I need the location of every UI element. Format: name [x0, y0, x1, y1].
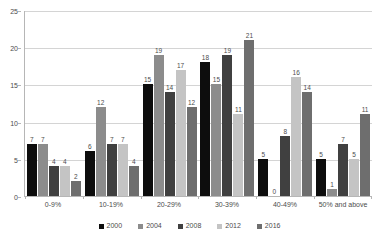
bar-value-label: 5	[261, 151, 265, 158]
x-tick-mark	[141, 196, 142, 199]
y-tick-label: 20	[10, 45, 18, 52]
bar[interactable]	[349, 159, 359, 196]
x-tick-label: 20-29%	[140, 200, 198, 216]
legend-swatch-icon	[138, 224, 143, 229]
bar-value-label: 17	[177, 62, 184, 69]
bar-value-label: 5	[319, 151, 323, 158]
bar[interactable]	[96, 107, 106, 196]
bar-slot: 16	[291, 11, 301, 196]
bar[interactable]	[107, 144, 117, 196]
bar[interactable]	[176, 70, 186, 196]
bar-value-label: 11	[362, 106, 369, 113]
legend-item[interactable]: 2012	[217, 222, 241, 230]
x-tick-mark	[25, 196, 26, 199]
bar[interactable]	[222, 55, 232, 196]
bar[interactable]	[302, 92, 312, 196]
bar-value-label: 8	[283, 128, 287, 135]
bar-group: 5081614	[256, 11, 314, 196]
bar[interactable]	[327, 189, 337, 196]
bar[interactable]	[338, 144, 348, 196]
bar-value-label: 14	[304, 84, 311, 91]
bar-value-label: 16	[293, 69, 300, 76]
bar-slot: 7	[27, 11, 37, 196]
y-tick-mark	[18, 123, 21, 124]
bar-groups: 7744261277415191417121815191121508161451…	[25, 11, 372, 196]
bar-value-label: 11	[235, 106, 242, 113]
bar-slot: 5	[258, 11, 268, 196]
bar-value-label: 7	[110, 136, 114, 143]
bar-value-label: 4	[52, 158, 56, 165]
bar[interactable]	[49, 166, 59, 196]
bar-slot: 0	[269, 11, 279, 196]
bar-slot: 8	[280, 11, 290, 196]
y-tick-mark	[18, 48, 21, 49]
bar[interactable]	[38, 144, 48, 196]
bar-slot: 15	[211, 11, 221, 196]
legend-label: 2016	[265, 222, 281, 230]
chart-legend: 20002004200820122016	[0, 222, 379, 230]
bar-value-label: 12	[97, 99, 104, 106]
bar[interactable]	[280, 136, 290, 196]
legend-item[interactable]: 2000	[99, 222, 123, 230]
x-tick-label: 10-19%	[82, 200, 140, 216]
bar[interactable]	[143, 84, 153, 196]
bar-slot: 21	[244, 11, 254, 196]
bar-slot: 17	[176, 11, 186, 196]
bar-slot: 15	[143, 11, 153, 196]
bar[interactable]	[233, 114, 243, 196]
bar-slot: 7	[107, 11, 117, 196]
bar-value-label: 7	[41, 136, 45, 143]
bar-value-label: 0	[272, 188, 276, 195]
bar[interactable]	[211, 84, 221, 196]
bar[interactable]	[360, 114, 370, 196]
bar-slot: 4	[60, 11, 70, 196]
bar-value-label: 4	[132, 158, 136, 165]
bar[interactable]	[244, 40, 254, 196]
bar-slot: 7	[118, 11, 128, 196]
bar-slot: 4	[129, 11, 139, 196]
bar-value-label: 7	[341, 136, 345, 143]
bar-group: 77442	[25, 11, 83, 196]
bar-value-label: 19	[224, 47, 231, 54]
bar[interactable]	[71, 181, 81, 196]
legend-item[interactable]: 2004	[138, 222, 162, 230]
bar[interactable]	[60, 166, 70, 196]
bar-value-label: 12	[188, 99, 195, 106]
bar[interactable]	[258, 159, 268, 196]
bar[interactable]	[118, 144, 128, 196]
y-tick-mark	[18, 160, 21, 161]
bar-value-label: 19	[155, 47, 162, 54]
bar-slot: 12	[187, 11, 197, 196]
legend-item[interactable]: 2016	[257, 222, 281, 230]
legend-item[interactable]: 2008	[178, 222, 202, 230]
bar[interactable]	[187, 107, 197, 196]
bar[interactable]	[316, 159, 326, 196]
bar-group: 1815191121	[198, 11, 256, 196]
bar-slot: 1	[327, 11, 337, 196]
x-tick-label: 30-39%	[198, 200, 256, 216]
x-tick-label: 40-49%	[256, 200, 314, 216]
bar-slot: 2	[71, 11, 81, 196]
bar[interactable]	[291, 77, 301, 196]
bar[interactable]	[129, 166, 139, 196]
x-axis: 0-9%10-19%20-29%30-39%40-49%50% and abov…	[24, 200, 372, 216]
legend-label: 2004	[146, 222, 162, 230]
legend-swatch-icon	[257, 224, 262, 229]
y-tick-label: 25	[10, 8, 18, 15]
bar-value-label: 5	[352, 151, 356, 158]
bar[interactable]	[85, 151, 95, 196]
bar[interactable]	[154, 55, 164, 196]
bar-group: 1519141712	[141, 11, 199, 196]
bar[interactable]	[165, 92, 175, 196]
bar-slot: 5	[316, 11, 326, 196]
x-tick-mark	[371, 196, 372, 199]
x-tick-mark	[198, 196, 199, 199]
y-tick-label: 10	[10, 119, 18, 126]
bar-slot: 19	[222, 11, 232, 196]
bar[interactable]	[200, 62, 210, 196]
bar-value-label: 21	[246, 32, 253, 39]
x-tick-label: 0-9%	[24, 200, 82, 216]
bar[interactable]	[27, 144, 37, 196]
legend-swatch-icon	[99, 224, 104, 229]
bar-slot: 11	[233, 11, 243, 196]
